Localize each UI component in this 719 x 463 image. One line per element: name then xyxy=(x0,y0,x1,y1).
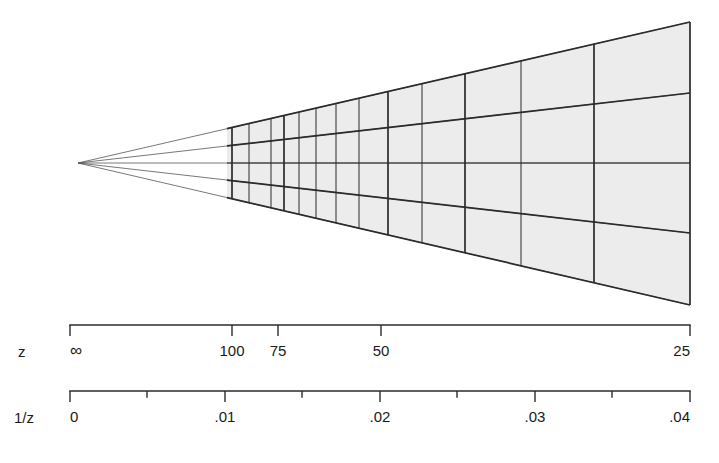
inverse-z-axis-tick-label-6: .03 xyxy=(525,408,546,425)
inverse-z-axis-tick-label-4: .02 xyxy=(370,408,391,425)
z-axis-tick-label-0: ∞ xyxy=(70,341,82,360)
inverse-z-axis-tick-label-8: .04 xyxy=(669,408,690,425)
inverse-z-axis-tick-label-0: 0 xyxy=(70,408,78,425)
axis-text-group: z1/z xyxy=(14,343,34,426)
z-axis-tick-label-2: 75 xyxy=(270,342,287,359)
z-axis-tick-label-4: 25 xyxy=(673,342,690,359)
z-axis-tick-label-3: 50 xyxy=(373,342,390,359)
z-axis-name: z xyxy=(18,343,26,360)
inverse-z-axis-group: 0.01.02.03.04 xyxy=(70,391,690,425)
inverse-z-axis-name: 1/z xyxy=(14,409,34,426)
inverse-z-axis-tick-label-2: .01 xyxy=(215,408,236,425)
z-axis-tick-label-1: 100 xyxy=(219,342,244,359)
perspective-zbuffer-figure: ∞100755025 0.01.02.03.04 z1/z xyxy=(0,0,719,463)
z-axis-group: ∞100755025 xyxy=(70,325,690,360)
